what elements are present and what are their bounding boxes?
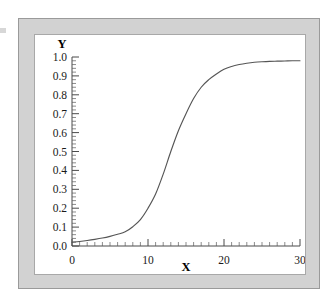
y-tick-label: 0.1 — [53, 221, 68, 233]
figure-frame: 0.00.10.20.30.40.50.60.70.80.91.0 010203… — [18, 18, 320, 289]
x-tick-label: 20 — [218, 254, 230, 266]
y-axis-major-ticks — [72, 57, 79, 246]
y-tick-label: 1.0 — [53, 51, 68, 63]
x-tick-label: 0 — [69, 254, 75, 266]
y-tick-label: 0.6 — [53, 127, 68, 139]
y-tick-label: 0.2 — [53, 202, 68, 214]
edge-artifact — [0, 28, 6, 33]
logistic-curve — [72, 61, 300, 242]
y-axis-tick-labels: 0.00.10.20.30.40.50.60.70.80.91.0 — [53, 51, 68, 252]
x-tick-label: 10 — [142, 254, 154, 266]
y-tick-label: 0.5 — [53, 146, 68, 158]
x-tick-label: 30 — [294, 254, 305, 266]
x-axis-title: X — [181, 260, 190, 274]
y-tick-label: 0.0 — [53, 240, 68, 252]
y-axis-title: Y — [57, 37, 66, 51]
y-tick-label: 0.9 — [53, 70, 68, 82]
chart-plot: 0.00.10.20.30.40.50.60.70.80.91.0 010203… — [35, 35, 305, 274]
y-tick-label: 0.3 — [53, 183, 68, 195]
x-axis-minor-ticks — [80, 242, 293, 246]
plot-canvas: 0.00.10.20.30.40.50.60.70.80.91.0 010203… — [34, 34, 306, 275]
y-tick-label: 0.7 — [53, 108, 68, 120]
y-tick-label: 0.8 — [53, 89, 68, 101]
y-tick-label: 0.4 — [53, 164, 68, 176]
